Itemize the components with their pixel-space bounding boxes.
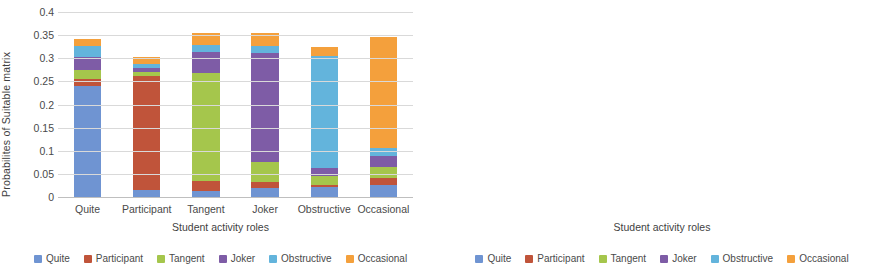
x-tick-label: Occasional — [344, 203, 422, 215]
y-tick-label: 0.15 — [34, 122, 54, 134]
legend-item: Tangent — [599, 253, 647, 264]
legend-item: Obstructive — [711, 253, 774, 264]
bar-segment — [251, 46, 278, 53]
x-axis-line — [58, 197, 413, 198]
bar-segment — [251, 53, 278, 162]
legend-item: Occasional — [346, 253, 407, 264]
bar-segment — [311, 187, 338, 197]
legend-swatch-icon — [34, 255, 42, 263]
y-tick-label: 0.4 — [39, 6, 54, 18]
legend-swatch-icon — [157, 255, 165, 263]
x-axis-title-right: Student activity roles — [441, 221, 883, 233]
y-tick-label: 0.3 — [39, 52, 54, 64]
bar-segment — [133, 190, 160, 197]
legend-swatch-icon — [599, 255, 607, 263]
legend-swatch-icon — [660, 255, 668, 263]
legend-item: Joker — [219, 253, 255, 264]
bar-segment — [370, 178, 397, 185]
legend-swatch-icon — [219, 255, 227, 263]
legend-swatch-icon — [525, 255, 533, 263]
bar-segment — [251, 188, 278, 197]
x-axis-title-left: Student activity roles — [0, 221, 441, 233]
bar-segment — [251, 162, 278, 182]
legend-item: Occasional — [787, 253, 848, 264]
bar-segment — [133, 76, 160, 190]
legend-label: Joker — [672, 253, 696, 264]
chart-panel-unsuitable: Probabilites of Unsuitable matrix 00.010… — [441, 0, 883, 274]
y-tick-label: 0 — [48, 191, 54, 203]
bar-segment — [311, 47, 338, 56]
gridline — [58, 58, 413, 59]
legend-item: Tangent — [157, 253, 205, 264]
bar-segment — [192, 45, 219, 52]
gridline — [58, 81, 413, 82]
legend-label: Obstructive — [281, 253, 332, 264]
legend-swatch-icon — [269, 255, 277, 263]
gridline — [58, 12, 413, 13]
legend-label: Occasional — [358, 253, 407, 264]
y-tick-label: 0.1 — [39, 145, 54, 157]
bar-segment — [74, 39, 101, 46]
legend-label: Joker — [231, 253, 255, 264]
legend-swatch-icon — [475, 255, 483, 263]
plot-wrapper-left: Probabilites of Suitable matrix 00.050.1… — [0, 0, 441, 248]
legend-item: Obstructive — [269, 253, 332, 264]
bar-segment — [370, 148, 397, 156]
bar-segment — [311, 176, 338, 185]
legend-left: QuiteParticipantTangentJokerObstructiveO… — [0, 253, 441, 264]
gridline — [58, 105, 413, 106]
legend-item: Quite — [475, 253, 511, 264]
bar-segment — [74, 86, 101, 197]
y-tick-label: 0.2 — [39, 99, 54, 111]
legend-label: Participant — [537, 253, 584, 264]
gridline — [58, 35, 413, 36]
legend-label: Occasional — [799, 253, 848, 264]
legend-label: Participant — [96, 253, 143, 264]
y-axis-ticks-left: 00.050.10.150.20.250.30.350.4 — [18, 12, 54, 197]
legend-swatch-icon — [711, 255, 719, 263]
legend-label: Quite — [46, 253, 70, 264]
legend-item: Participant — [525, 253, 584, 264]
bar-segment — [370, 156, 397, 167]
bar-segment — [370, 167, 397, 178]
legend-item: Joker — [660, 253, 696, 264]
bar-segment — [192, 52, 219, 72]
plot-wrapper-right: Probabilites of Unsuitable matrix 00.010… — [441, 0, 883, 248]
gridline — [58, 174, 413, 175]
legend-item: Participant — [84, 253, 143, 264]
y-tick-label: 0.35 — [34, 29, 54, 41]
legend-swatch-icon — [346, 255, 354, 263]
y-axis-title-left: Probabilites of Suitable matrix — [0, 52, 12, 197]
y-tick-label: 0.25 — [34, 75, 54, 87]
legend-label: Tangent — [169, 253, 205, 264]
bar-segment — [74, 46, 101, 57]
legend-label: Quite — [487, 253, 511, 264]
legend-swatch-icon — [787, 255, 795, 263]
gridline — [58, 151, 413, 152]
y-tick-label: 0.05 — [34, 168, 54, 180]
gridline — [58, 128, 413, 129]
legend-right: QuiteParticipantTangentJokerObstructiveO… — [441, 253, 883, 264]
figure-root: Probabilites of Suitable matrix 00.050.1… — [0, 0, 883, 274]
bar-segment — [74, 70, 101, 78]
chart-panel-suitable: Probabilites of Suitable matrix 00.050.1… — [0, 0, 441, 274]
legend-label: Obstructive — [723, 253, 774, 264]
bar-segment — [370, 37, 397, 148]
legend-item: Quite — [34, 253, 70, 264]
bar-segment — [370, 185, 397, 197]
legend-label: Tangent — [611, 253, 647, 264]
bar-segment — [192, 181, 219, 190]
legend-swatch-icon — [84, 255, 92, 263]
